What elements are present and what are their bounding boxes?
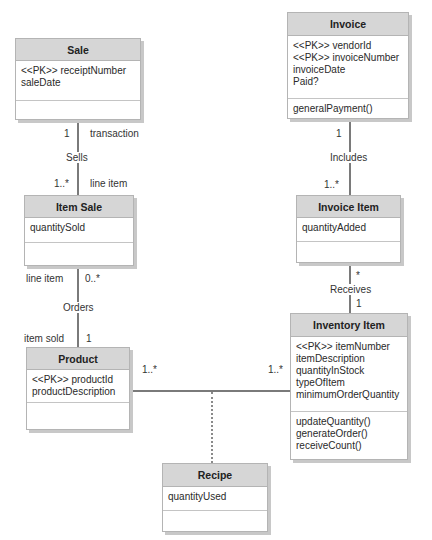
attribute: Paid? [293, 76, 403, 88]
class-inventory-item-methods: updateQuantity() generateOrder() receive… [291, 412, 407, 459]
method: updateQuantity() [296, 416, 402, 428]
method: generalPayment() [293, 103, 403, 115]
class-sale-attributes: <<PK>> receiptNumber saleDate [16, 61, 140, 101]
class-invoice[interactable]: Invoice <<PK>> vendorId <<PK>> invoiceNu… [287, 12, 409, 119]
class-recipe-title: Recipe [163, 464, 267, 487]
includes-top-multiplicity: 1 [336, 128, 342, 139]
class-inventory-item[interactable]: Inventory Item <<PK>> itemNumber itemDes… [290, 313, 408, 460]
class-invoice-methods: generalPayment() [288, 99, 408, 118]
orders-bottom-role: item sold [24, 333, 64, 344]
class-invoice-item-attributes: quantityAdded [297, 218, 400, 242]
product-inventory-line [130, 390, 290, 392]
sells-association-name: Sells [64, 152, 90, 163]
class-inventory-item-attributes: <<PK>> itemNumber itemDescription quanti… [291, 337, 407, 412]
class-product-methods [27, 403, 129, 429]
includes-association-name: Includes [328, 152, 369, 163]
attribute: productDescription [32, 386, 124, 398]
orders-top-role: line item [26, 273, 63, 284]
attribute: minimumOrderQuantity [296, 389, 402, 401]
class-sale-methods [16, 101, 140, 119]
attribute: <<PK>> receiptNumber [21, 65, 135, 77]
attribute: itemDescription [296, 353, 402, 365]
method: generateOrder() [296, 428, 402, 440]
attribute: typeOfItem [296, 377, 402, 389]
orders-bottom-multiplicity: 1 [86, 333, 92, 344]
class-sale[interactable]: Sale <<PK>> receiptNumber saleDate [15, 38, 141, 120]
class-invoice-attributes: <<PK>> vendorId <<PK>> invoiceNumber inv… [288, 36, 408, 99]
class-product-attributes: <<PK>> productId productDescription [27, 370, 129, 403]
class-product[interactable]: Product <<PK>> productId productDescript… [26, 347, 130, 430]
class-invoice-title: Invoice [288, 13, 408, 36]
class-sale-title: Sale [16, 39, 140, 61]
sells-bottom-multiplicity: 1..* [54, 178, 69, 189]
class-item-sale-methods [25, 243, 133, 265]
sells-top-role: transaction [90, 128, 139, 139]
class-inventory-item-title: Inventory Item [291, 314, 407, 337]
attribute: quantityInStock [296, 365, 402, 377]
attribute: saleDate [21, 77, 135, 89]
includes-bottom-multiplicity: 1..* [324, 179, 339, 190]
class-recipe-attributes: quantityUsed [163, 487, 267, 511]
class-invoice-item-title: Invoice Item [297, 196, 400, 218]
class-recipe[interactable]: Recipe quantityUsed [162, 463, 268, 532]
recipe-association-dotted-line [211, 392, 213, 463]
attribute: invoiceDate [293, 64, 403, 76]
orders-top-multiplicity: 0..* [85, 273, 100, 284]
inventory-side-multiplicity: 1..* [268, 364, 283, 375]
attribute: <<PK>> productId [32, 374, 124, 386]
attribute: <<PK>> itemNumber [296, 341, 402, 353]
class-product-title: Product [27, 348, 129, 370]
method: receiveCount() [296, 440, 402, 452]
sells-top-multiplicity: 1 [64, 128, 70, 139]
class-invoice-item[interactable]: Invoice Item quantityAdded [296, 195, 401, 263]
attribute: quantitySold [30, 222, 128, 234]
receives-top-multiplicity: * [356, 270, 360, 281]
class-recipe-methods [163, 511, 267, 531]
attribute: quantityAdded [302, 222, 395, 234]
attribute: <<PK>> vendorId [293, 40, 403, 52]
attribute: <<PK>> invoiceNumber [293, 52, 403, 64]
receives-bottom-multiplicity: 1 [356, 298, 362, 309]
class-invoice-item-methods [297, 242, 400, 262]
sells-bottom-role: line item [90, 178, 127, 189]
class-item-sale-attributes: quantitySold [25, 218, 133, 243]
receives-association-name: Receives [328, 284, 373, 295]
class-item-sale[interactable]: Item Sale quantitySold [24, 195, 134, 266]
class-item-sale-title: Item Sale [25, 196, 133, 218]
orders-association-name: Orders [61, 302, 96, 313]
product-side-multiplicity: 1..* [142, 364, 157, 375]
attribute: quantityUsed [168, 491, 262, 503]
